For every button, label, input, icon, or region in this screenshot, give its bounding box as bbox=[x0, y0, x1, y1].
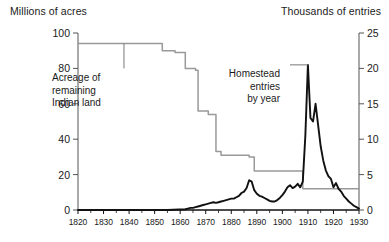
svg-text:1820: 1820 bbox=[69, 217, 88, 227]
svg-text:1870: 1870 bbox=[196, 217, 215, 227]
svg-text:1850: 1850 bbox=[145, 217, 164, 227]
chart-figure: Millions of acres Thousands of entries 0… bbox=[0, 0, 389, 242]
annotation-homestead-line-3: by year bbox=[188, 93, 280, 106]
x-axis-ticks: 1820183018401850186018701880189019001910… bbox=[69, 210, 369, 227]
svg-text:40: 40 bbox=[58, 133, 70, 145]
svg-text:1860: 1860 bbox=[171, 217, 190, 227]
svg-text:100: 100 bbox=[52, 27, 70, 39]
svg-text:10: 10 bbox=[367, 133, 379, 145]
annotation-indian-land-line-3: Indian land bbox=[52, 97, 101, 110]
annotation-homestead-line-2: entries bbox=[188, 81, 280, 94]
svg-text:15: 15 bbox=[367, 98, 379, 110]
svg-text:5: 5 bbox=[367, 169, 373, 181]
svg-text:1900: 1900 bbox=[273, 217, 292, 227]
svg-text:1890: 1890 bbox=[248, 217, 267, 227]
annotation-homestead-line-1: Homestead bbox=[188, 68, 280, 81]
svg-text:20: 20 bbox=[367, 62, 379, 74]
left-axis-ticks: 020406080100 bbox=[52, 27, 78, 216]
annotation-leader-lines bbox=[124, 44, 308, 69]
right-axis-ticks: 0510152025 bbox=[359, 27, 379, 216]
annotation-indian-land: Acreage of remaining Indian land bbox=[52, 72, 101, 110]
annotation-indian-land-line-2: remaining bbox=[52, 85, 101, 98]
svg-text:1910: 1910 bbox=[299, 217, 318, 227]
annotation-homestead: Homestead entries by year bbox=[188, 68, 280, 106]
svg-text:0: 0 bbox=[367, 204, 373, 216]
chart-plot-area: 020406080100 0510152025 1820183018401850… bbox=[0, 0, 389, 242]
svg-text:1930: 1930 bbox=[350, 217, 369, 227]
svg-text:20: 20 bbox=[58, 169, 70, 181]
svg-text:1830: 1830 bbox=[94, 217, 113, 227]
svg-text:0: 0 bbox=[64, 204, 70, 216]
annotation-indian-land-line-1: Acreage of bbox=[52, 72, 101, 85]
svg-text:1880: 1880 bbox=[222, 217, 241, 227]
svg-text:1840: 1840 bbox=[120, 217, 139, 227]
svg-text:1920: 1920 bbox=[324, 217, 343, 227]
svg-text:25: 25 bbox=[367, 27, 379, 39]
